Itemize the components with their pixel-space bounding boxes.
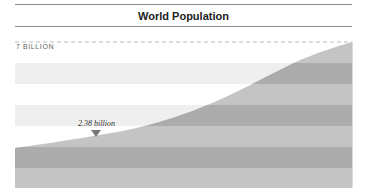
annotation-label: 2.38 billion	[78, 119, 115, 128]
reference-label: 7 billion	[16, 43, 54, 50]
area-chart	[0, 0, 365, 192]
